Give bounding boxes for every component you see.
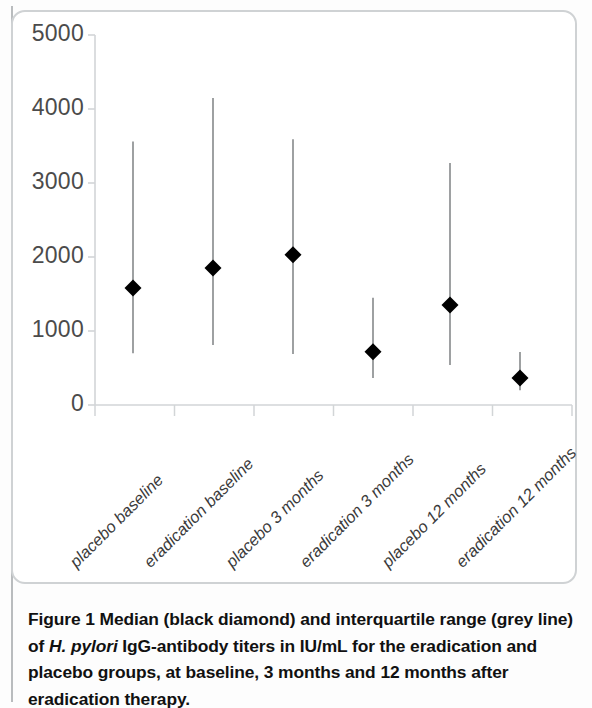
data-point-group (512, 352, 529, 390)
data-point-group (205, 98, 222, 345)
data-point-group (125, 142, 142, 354)
median-diamond-marker (442, 297, 459, 314)
data-point-group (365, 298, 382, 378)
data-point-group (285, 139, 302, 354)
median-diamond-marker (125, 280, 142, 297)
figure-caption-label: Figure 1 (28, 609, 95, 629)
x-axis-category-label: eradication 12 months (452, 443, 580, 571)
y-axis-tick-label: 4000 (6, 94, 84, 121)
data-point-group (442, 163, 459, 365)
figure-caption: Figure 1 Median (black diamond) and inte… (28, 606, 576, 708)
y-axis-tick-label: 5000 (6, 20, 84, 47)
median-diamond-marker (285, 246, 302, 263)
figure-caption-species: H. pylori (49, 636, 118, 656)
y-axis-tick-label: 2000 (6, 242, 84, 269)
y-axis-tick-label: 3000 (6, 168, 84, 195)
y-axis-tick-label: 1000 (6, 316, 84, 343)
figure-page: 010002000300040005000 placebo baselineer… (0, 0, 592, 708)
median-diamond-marker (365, 343, 382, 360)
x-axis-category-labels: placebo baselineeradication baselineplac… (0, 406, 592, 596)
median-diamond-marker (512, 369, 529, 386)
median-diamond-marker (205, 260, 222, 277)
